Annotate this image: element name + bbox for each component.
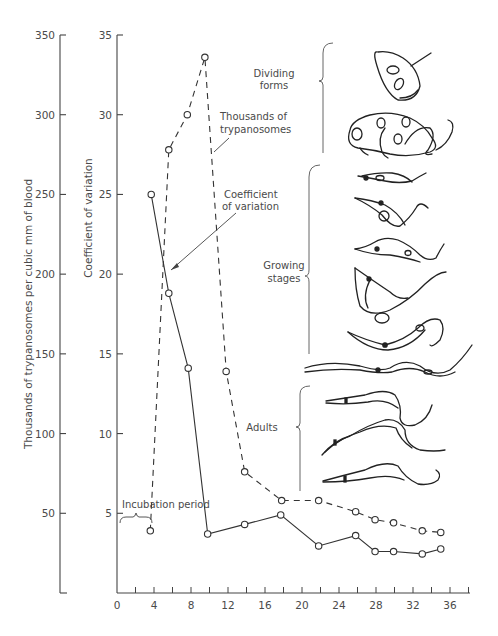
adult-3-icon: [323, 464, 440, 485]
data-point: [148, 191, 154, 197]
growing-stage-4-icon: [355, 268, 446, 323]
dividing-form-1-icon: [375, 52, 431, 101]
annotation-thousands-line2: trypanosomes: [220, 124, 291, 135]
data-point: [372, 548, 378, 554]
x-tick-label: 12: [221, 599, 234, 611]
annotation-thousands-line1: Thousands of: [219, 111, 287, 122]
trypanosome-illustrations: [305, 52, 472, 485]
x-tick-label: 28: [369, 599, 382, 611]
series-trypanosome-count: [147, 54, 444, 535]
annotation-incubation: Incubation period: [120, 499, 210, 523]
left-axis-title: Thousands of trypanosomes per cubic mm o…: [22, 179, 34, 450]
data-point: [202, 54, 208, 60]
data-point: [315, 497, 321, 503]
annotation-cv-line1: Coefficient: [224, 189, 278, 200]
left-tick-label: 200: [35, 268, 55, 280]
data-point: [352, 508, 358, 514]
x-tick-label: 36: [443, 599, 457, 611]
data-point: [438, 529, 444, 535]
stage-dividing-forms: Dividing forms: [254, 43, 334, 153]
left-tick-label: 50: [42, 507, 55, 519]
x-tick-label: 20: [295, 599, 308, 611]
dividing-form-2-icon: [349, 113, 453, 158]
growing-stage-1-icon: [358, 173, 426, 183]
right-tick-label: 20: [99, 268, 112, 280]
right-axis-ticks: 5101520253035: [99, 29, 123, 519]
data-point: [185, 365, 191, 371]
data-point: [315, 543, 321, 549]
series-layer: [147, 54, 444, 557]
adults-label: Adults: [246, 422, 277, 433]
data-point: [278, 512, 284, 518]
right-tick-label: 5: [105, 507, 112, 519]
data-point: [419, 551, 425, 557]
right-tick-label: 15: [99, 348, 112, 360]
data-point: [352, 532, 358, 538]
x-tick-label: 0: [114, 599, 121, 611]
data-point: [278, 497, 284, 503]
data-point: [184, 112, 190, 118]
right-tick-label: 35: [99, 29, 112, 41]
incubation-label: Incubation period: [122, 499, 210, 510]
left-y-axis: [60, 35, 67, 593]
data-point: [166, 290, 172, 296]
data-point: [241, 469, 247, 475]
left-tick-label: 300: [35, 109, 55, 121]
x-tick-label: 4: [151, 599, 158, 611]
data-point: [419, 528, 425, 534]
left-axis-ticks: 50100150200250300350: [35, 29, 66, 519]
x-axis-ticks: 04812162024283236: [114, 587, 469, 611]
x-tick-label: 32: [406, 599, 419, 611]
annotation-cv-line2: of variation: [222, 201, 279, 212]
data-point: [390, 520, 396, 526]
data-point: [241, 521, 247, 527]
right-tick-label: 10: [99, 428, 112, 440]
annotation-thousands: Thousands of trypanosomes: [214, 111, 291, 152]
data-point: [166, 147, 172, 153]
data-point: [390, 548, 396, 554]
x-tick-label: 8: [188, 599, 195, 611]
growing-label-2: stages: [268, 273, 301, 284]
growing-stage-3-icon: [355, 238, 444, 262]
left-tick-label: 250: [35, 188, 55, 200]
data-point: [223, 368, 229, 374]
x-tick-label: 16: [258, 599, 272, 611]
x-tick-label: 24: [332, 599, 346, 611]
annotation-cv: Coefficient of variation: [171, 189, 279, 270]
left-tick-label: 350: [35, 29, 55, 41]
right-tick-label: 25: [99, 188, 112, 200]
data-point: [204, 531, 210, 537]
left-tick-label: 150: [35, 348, 55, 360]
adult-1-icon: [326, 392, 432, 426]
growing-stage-2-icon: [355, 198, 428, 226]
data-point: [438, 546, 444, 552]
growing-label-1: Growing: [263, 260, 304, 271]
growing-stage-5-icon: [348, 319, 443, 350]
right-tick-label: 30: [99, 109, 112, 121]
trypanosome-chart: 50100150200250300350 Thousands of trypan…: [0, 0, 498, 636]
data-point: [372, 516, 378, 522]
right-axis-title: Coefficient of variation: [82, 158, 94, 278]
dividing-label-1: Dividing: [254, 68, 295, 79]
data-point: [147, 528, 153, 534]
dividing-label-2: forms: [260, 80, 289, 91]
left-tick-label: 100: [35, 428, 55, 440]
adult-2-icon: [322, 420, 445, 455]
stage-adults: Adults: [246, 386, 310, 491]
